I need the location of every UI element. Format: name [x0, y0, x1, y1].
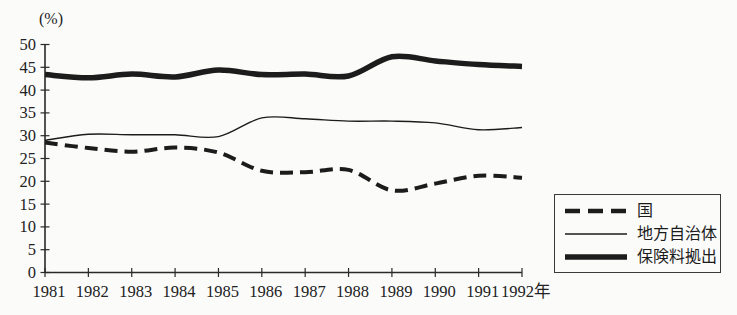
x-tick-label: 1987: [293, 282, 326, 301]
legend-bold-line-icon: [564, 252, 628, 262]
x-tick-label: 1983: [119, 282, 152, 301]
x-tick-label: 1991: [466, 282, 499, 301]
y-tick-label: 35: [20, 103, 37, 122]
x-tick-label: 1981: [33, 282, 66, 301]
y-tick-label: 50: [20, 35, 37, 54]
legend-label-local-government: 地方自治体: [637, 226, 717, 242]
y-axis-unit-label: (%): [39, 10, 63, 28]
legend-item-national: 国: [564, 203, 720, 219]
x-tick-label: 1986: [249, 282, 282, 301]
y-tick-label: 15: [20, 195, 37, 214]
chart-legend: 国 地方自治体 保険料拠出: [554, 194, 721, 273]
y-tick-label: 25: [20, 149, 37, 168]
y-tick-label: 10: [20, 217, 37, 236]
x-tick-label: 1984: [163, 282, 196, 301]
y-tick-label: 5: [28, 240, 36, 259]
y-tick-label: 0: [28, 263, 36, 282]
x-tick-label: 1992年: [501, 282, 551, 301]
series-line-insurance-premium: [45, 56, 522, 78]
y-tick-label: 40: [20, 81, 37, 100]
legend-thin-line-icon: [564, 229, 628, 239]
x-tick-label: 1989: [379, 282, 412, 301]
chart-page: 05101520253035404550(%)19811982198319841…: [0, 0, 737, 315]
x-tick-label: 1988: [336, 282, 369, 301]
y-tick-label: 45: [20, 58, 37, 77]
series-line-national: [45, 143, 522, 191]
y-tick-label: 30: [20, 126, 37, 145]
legend-item-local-government: 地方自治体: [564, 226, 720, 242]
x-tick-label: 1985: [206, 282, 239, 301]
legend-label-insurance-premium: 保険料拠出: [637, 249, 717, 265]
x-tick-label: 1990: [423, 282, 456, 301]
legend-dashed-line-icon: [564, 206, 628, 216]
legend-label-national: 国: [637, 203, 653, 219]
y-tick-label: 20: [20, 172, 37, 191]
x-tick-label: 1982: [76, 282, 109, 301]
legend-item-insurance-premium: 保険料拠出: [564, 249, 720, 265]
series-line-local-government: [45, 117, 522, 141]
